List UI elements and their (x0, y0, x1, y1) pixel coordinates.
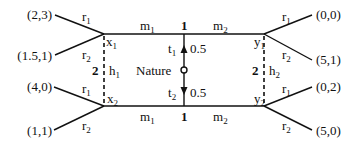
payoff-y1-r2: (5,1) (316, 52, 341, 67)
nature-prob-t2: 0.5 (190, 85, 206, 100)
info-set-h2-label: h2 (269, 63, 280, 80)
player1-label: 1 (181, 109, 188, 124)
payoff-x2-r1: (4,0) (27, 79, 52, 94)
action-m1-label: m1 (140, 18, 155, 35)
player2-label-left: 2 (92, 63, 99, 78)
action-r2-label: r2 (82, 47, 91, 64)
payoff-x1-r1: (2,3) (27, 7, 52, 22)
action-r2-label: r2 (82, 118, 91, 135)
branch-x2-r1 (54, 87, 104, 106)
nature-prob-t1: 0.5 (190, 41, 206, 56)
nature-move-t1: t1 (168, 41, 176, 58)
node-x1-label: x1 (106, 34, 117, 51)
payoff-x2-r2: (1,1) (27, 123, 52, 138)
action-r1-label: r1 (82, 81, 91, 98)
action-r2-label: r2 (282, 118, 291, 135)
nature-node (181, 67, 187, 73)
arrow-down-icon (181, 87, 188, 95)
action-r2-label: r2 (282, 47, 291, 64)
payoff-y2-r2: (5,0) (316, 123, 341, 138)
arrow-up-icon (181, 45, 188, 53)
player1-label: 1 (181, 18, 188, 33)
action-r1-label: r1 (282, 81, 291, 98)
action-m2-label: m2 (213, 18, 228, 35)
action-m2-label: m2 (213, 109, 228, 126)
payoff-y1-r1: (0,0) (316, 7, 341, 22)
payoff-x1-r2: (1.5,1) (17, 48, 52, 63)
branch-x1-r1 (55, 15, 104, 34)
nature-label: Nature (136, 63, 172, 78)
payoff-y2-r1: (0,2) (316, 79, 341, 94)
branch-x1-r2 (55, 34, 104, 55)
action-r1-label: r1 (82, 9, 91, 26)
info-set-h1-label: h1 (109, 63, 120, 80)
nature-move-t2: t2 (168, 85, 176, 102)
action-m1-label: m1 (140, 109, 155, 126)
action-r1-label: r1 (282, 9, 291, 26)
branch-x2-r2 (54, 106, 104, 130)
node-x2-label: x2 (107, 91, 118, 108)
player2-label-right: 2 (252, 63, 259, 78)
game-tree-diagram: (2,3) (1.5,1) (4,0) (1,1) (0,0) (5,1) (0… (0, 0, 360, 146)
